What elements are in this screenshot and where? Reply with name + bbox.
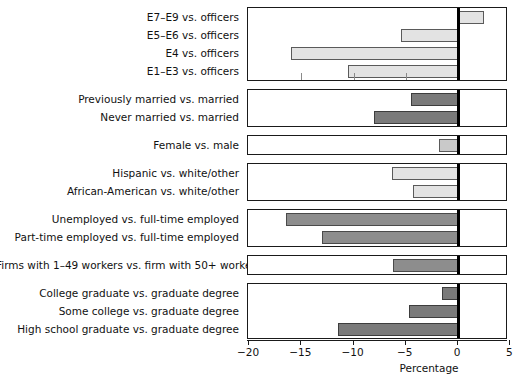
bar	[392, 167, 458, 180]
zero-reference-line	[457, 136, 460, 154]
x-tick	[353, 340, 354, 345]
bar	[286, 213, 458, 226]
category-label: E5–E6 vs. officers	[0, 26, 243, 44]
category-label: Previously married vs. married	[0, 90, 243, 108]
bar-group-pay-grade	[248, 8, 506, 80]
bar-group-sex	[248, 136, 506, 154]
zero-reference-line	[457, 284, 460, 338]
bar-row	[248, 8, 506, 26]
bar-row	[248, 108, 506, 126]
zero-reference-line	[457, 256, 460, 274]
x-tick	[509, 340, 510, 345]
bar-group-employment-status	[248, 210, 506, 246]
zero-reference-line	[457, 164, 460, 200]
category-label: Firms with 1–49 workers vs. firm with 50…	[0, 256, 243, 274]
bar-row	[248, 210, 506, 228]
bar-row	[248, 136, 506, 154]
bar-row	[248, 284, 506, 302]
bar-group-firm-size	[248, 256, 506, 274]
bar-group-education	[248, 284, 506, 338]
bar-group-race-ethnicity	[248, 164, 506, 200]
x-tick-label: −20	[237, 346, 259, 358]
x-axis-title: Percentage	[399, 362, 458, 374]
category-label: E7–E9 vs. officers	[0, 8, 243, 26]
category-label: E4 vs. officers	[0, 44, 243, 62]
x-tick	[248, 340, 249, 345]
plot-panel-firm-size	[247, 255, 507, 275]
inner-tick	[354, 73, 355, 80]
bar-row	[248, 256, 506, 274]
bar	[348, 65, 458, 78]
bar	[338, 323, 458, 336]
bar-row	[248, 164, 506, 182]
x-axis	[247, 340, 507, 341]
bar-row	[248, 44, 506, 62]
x-tick	[457, 340, 458, 345]
bar-row	[248, 228, 506, 246]
category-label: Unemployed vs. full-time employed	[0, 210, 243, 228]
x-tick	[300, 340, 301, 345]
category-label: E1–E3 vs. officers	[0, 62, 243, 80]
x-tick-label: 5	[506, 346, 513, 358]
category-label: Some college vs. graduate degree	[0, 302, 243, 320]
bar-row	[248, 302, 506, 320]
plot-panel-sex	[247, 135, 507, 155]
x-tick	[405, 340, 406, 345]
bar	[291, 47, 458, 60]
category-label: African-American vs. white/other	[0, 182, 243, 200]
category-label: Hispanic vs. white/other	[0, 164, 243, 182]
plot-panel-pay-grade	[247, 7, 507, 81]
inner-tick	[406, 73, 407, 80]
category-label: Never married vs. married	[0, 108, 243, 126]
x-tick-label: −5	[397, 346, 412, 358]
zero-reference-line	[457, 8, 460, 80]
category-label: Female vs. male	[0, 136, 243, 154]
x-tick-label: −10	[341, 346, 363, 358]
bar-row	[248, 90, 506, 108]
bar	[393, 259, 458, 272]
plot-panel-marital-status	[247, 89, 507, 127]
x-tick-label: 0	[454, 346, 461, 358]
bar	[322, 231, 458, 244]
plot-panel-race-ethnicity	[247, 163, 507, 201]
category-label: High school graduate vs. graduate degree	[0, 320, 243, 338]
zero-reference-line	[457, 90, 460, 126]
bar	[439, 139, 458, 152]
bar-row	[248, 26, 506, 44]
bar	[413, 185, 458, 198]
plot-panel-employment-status	[247, 209, 507, 247]
bar	[442, 287, 458, 300]
category-label: Part-time employed vs. full-time employe…	[0, 228, 243, 246]
bar-row	[248, 62, 506, 80]
bar-row	[248, 320, 506, 338]
plot-panel-education	[247, 283, 507, 339]
bar	[409, 305, 458, 318]
bar	[374, 111, 458, 124]
bar-group-marital-status	[248, 90, 506, 126]
zero-reference-line	[457, 210, 460, 246]
bar	[458, 11, 484, 24]
inner-tick	[301, 73, 302, 80]
bar-row	[248, 182, 506, 200]
bar	[401, 29, 458, 42]
bar	[411, 93, 458, 106]
x-tick-label: −15	[289, 346, 311, 358]
category-label: College graduate vs. graduate degree	[0, 284, 243, 302]
